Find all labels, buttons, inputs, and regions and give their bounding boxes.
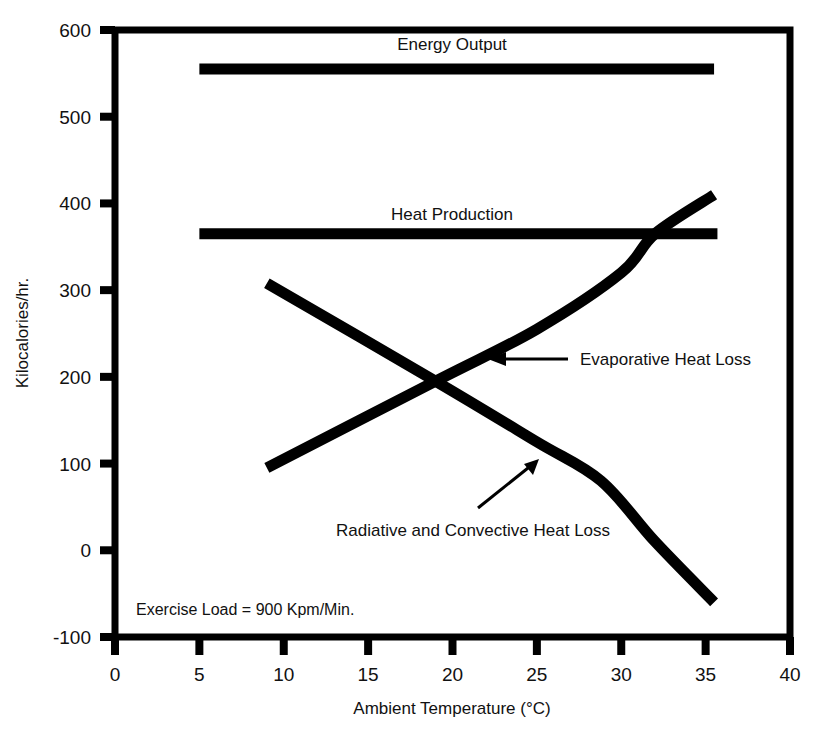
y-tick-label: 100 <box>59 454 91 475</box>
x-tick-label: 5 <box>194 664 205 685</box>
series-label-evaporative-heat-loss: Evaporative Heat Loss <box>580 350 751 369</box>
y-tick-label: 600 <box>59 20 91 41</box>
x-tick-label: 25 <box>526 664 547 685</box>
series-label-heat-production: Heat Production <box>391 205 513 224</box>
y-tick-label: 400 <box>59 193 91 214</box>
x-tick-label: 10 <box>273 664 294 685</box>
y-tick-label: 0 <box>80 540 91 561</box>
physiology-line-chart: 6005004003002001000-100 0510152025303540… <box>0 0 815 740</box>
x-tick-label: 30 <box>611 664 632 685</box>
x-axis-title: Ambient Temperature (°C) <box>353 699 550 718</box>
x-tick-label: 35 <box>695 664 716 685</box>
y-tick-label: -100 <box>53 627 91 648</box>
series-label-energy-output: Energy Output <box>397 35 507 54</box>
x-tick-label: 15 <box>358 664 379 685</box>
x-tick-label: 0 <box>110 664 121 685</box>
x-tick-label: 20 <box>442 664 463 685</box>
y-tick-label: 200 <box>59 367 91 388</box>
series-label-radiative-convective-heat-loss: Radiative and Convective Heat Loss <box>336 521 610 540</box>
y-tick-label: 500 <box>59 107 91 128</box>
chart-canvas: 6005004003002001000-100 0510152025303540… <box>0 0 815 740</box>
exercise-load-note: Exercise Load = 900 Kpm/Min. <box>136 601 354 618</box>
x-tick-label: 40 <box>779 664 800 685</box>
y-axis-title: Kilocalories/hr. <box>13 278 32 389</box>
y-tick-label: 300 <box>59 280 91 301</box>
